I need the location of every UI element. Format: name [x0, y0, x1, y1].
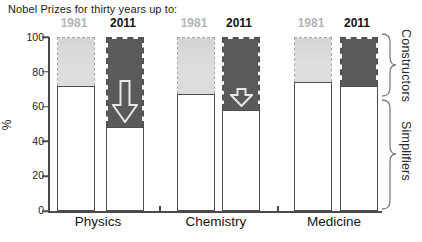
ytick-label-40: 40	[16, 135, 44, 147]
bar-chemistry-1981	[177, 37, 215, 211]
year-label-physics-2011: 2011	[104, 16, 142, 30]
simplifiers-segment	[340, 86, 378, 211]
bar-chemistry-2011	[222, 37, 260, 211]
ytick-label-60: 60	[16, 100, 44, 112]
bar-medicine-1981	[294, 37, 332, 211]
simplifiers-segment	[294, 82, 332, 211]
ytick-label-0: 0	[16, 204, 44, 216]
y-axis-label: %	[0, 120, 14, 131]
y-axis-tick	[42, 175, 49, 177]
constructors-segment	[106, 37, 144, 127]
constructors-segment	[177, 37, 215, 94]
chart-title: Nobel Prizes for thirty years up to:	[8, 3, 177, 15]
simplifiers-label: Simplifiers	[399, 104, 413, 198]
bar-medicine-2011	[340, 37, 378, 211]
constructors-segment	[294, 37, 332, 82]
year-label-chemistry-2011: 2011	[220, 16, 258, 30]
year-label-chemistry-1981: 1981	[175, 16, 213, 30]
ytick-label-80: 80	[16, 66, 44, 78]
constructors-label: Constructors	[399, 20, 413, 112]
bar-physics-2011	[106, 37, 144, 211]
bar-physics-1981	[57, 37, 95, 211]
y-axis-tick	[42, 71, 49, 73]
x-axis-group-tick	[159, 206, 161, 211]
y-axis-tick	[42, 36, 49, 38]
y-axis-tick	[42, 210, 49, 212]
year-label-physics-1981: 1981	[55, 16, 93, 30]
constructors-segment	[222, 37, 260, 110]
simplifiers-segment	[222, 110, 260, 211]
simplifiers-segment	[177, 94, 215, 211]
decrease-arrow-icon	[230, 88, 253, 107]
constructors-segment	[340, 37, 378, 86]
year-label-medicine-2011: 2011	[338, 16, 376, 30]
y-axis-tick	[42, 141, 49, 143]
ytick-label-100: 100	[16, 31, 44, 43]
constructors-segment	[57, 37, 95, 86]
decrease-arrow-icon	[112, 80, 138, 123]
group-label-medicine: Medicine	[289, 214, 379, 229]
year-label-medicine-1981: 1981	[292, 16, 330, 30]
simplifiers-segment	[57, 86, 95, 211]
x-axis-group-tick	[277, 206, 279, 211]
simplifiers-segment	[106, 127, 144, 211]
group-label-chemistry: Chemistry	[171, 214, 261, 229]
plot-area	[48, 37, 382, 213]
nobel-prize-chart: Nobel Prizes for thirty years up to: 198…	[0, 0, 422, 242]
y-axis-tick	[42, 106, 49, 108]
ytick-label-20: 20	[16, 169, 44, 181]
group-label-physics: Physics	[53, 214, 143, 229]
